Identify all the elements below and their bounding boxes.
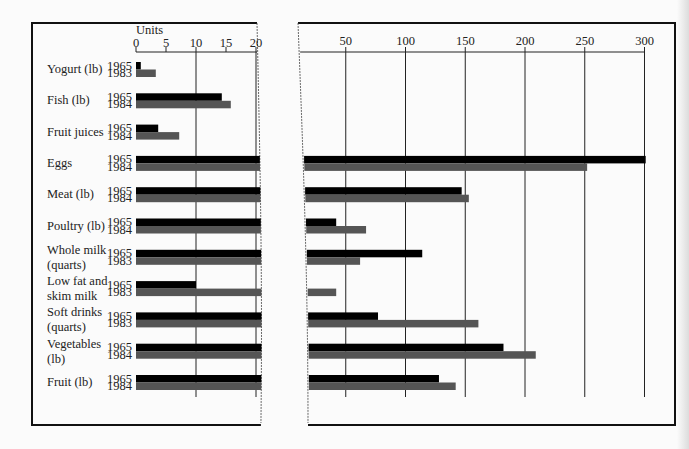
bar-1983-right-part bbox=[307, 257, 360, 265]
x-axis-label: Units bbox=[136, 23, 163, 37]
bar-1983 bbox=[136, 70, 156, 78]
year-label: 1984 bbox=[107, 160, 133, 174]
bars bbox=[136, 62, 646, 390]
left-tick-label: 0 bbox=[133, 36, 139, 50]
year-label: 1984 bbox=[107, 379, 133, 393]
category-label: (lb) bbox=[47, 352, 65, 366]
bar-1965-right-part bbox=[309, 344, 504, 352]
year-label: 1984 bbox=[107, 191, 133, 205]
bar-1984-left-part bbox=[136, 163, 260, 171]
bar-1984-left-part bbox=[136, 351, 261, 359]
bar-1983-right-part bbox=[308, 289, 337, 297]
category-label: (quarts) bbox=[47, 258, 86, 272]
year-label: 1983 bbox=[107, 66, 132, 80]
page-edge-shadow bbox=[677, 0, 689, 449]
year-label: 1984 bbox=[107, 223, 133, 237]
left-tick-label: 5 bbox=[163, 36, 169, 50]
bar-1965-right-part bbox=[309, 375, 439, 383]
category-label: (quarts) bbox=[47, 320, 86, 334]
category-label: skim milk bbox=[47, 289, 98, 303]
category-label: Meat (lb) bbox=[47, 187, 94, 201]
year-label: 1984 bbox=[107, 348, 133, 362]
right-panel-frame bbox=[298, 23, 675, 425]
right-tick-label: 200 bbox=[516, 34, 535, 48]
bar-1984-right-part bbox=[304, 163, 587, 171]
right-tick-label: 250 bbox=[575, 34, 594, 48]
consumption-bar-chart: Units 0510152050100150200250300 19651983… bbox=[0, 0, 689, 449]
bar-1983-left-part bbox=[136, 257, 261, 265]
bar-1965-left-part bbox=[136, 187, 260, 195]
bar-1984 bbox=[136, 101, 231, 109]
bar-1983-right-part bbox=[308, 320, 478, 328]
bar-1965-left-part bbox=[136, 156, 260, 164]
bar-1965-left-part bbox=[136, 344, 261, 352]
category-label: Fish (lb) bbox=[47, 93, 90, 107]
bar-1984-right-part bbox=[309, 351, 536, 359]
bar-1965-left-part bbox=[136, 250, 261, 257]
right-tick-label: 150 bbox=[456, 34, 475, 48]
year-label: 1983 bbox=[107, 254, 132, 268]
bar-1965 bbox=[136, 62, 141, 70]
bar-1965-right-part bbox=[307, 250, 422, 257]
bar-1965-left-part bbox=[136, 219, 261, 227]
bar-1965-right-part bbox=[308, 312, 378, 320]
left-tick-label: 20 bbox=[250, 36, 263, 50]
bar-1965 bbox=[136, 93, 222, 101]
category-label: Eggs bbox=[47, 156, 72, 170]
right-tick-label: 300 bbox=[635, 34, 654, 48]
category-label: Soft drinks bbox=[47, 305, 102, 319]
bar-1984-right-part bbox=[305, 195, 469, 203]
left-tick-label: 15 bbox=[220, 36, 233, 50]
bar-1965-left-part bbox=[136, 375, 261, 383]
bar-1984-left-part bbox=[136, 383, 261, 391]
category-label: Fruit (lb) bbox=[47, 375, 92, 389]
bar-1965-right-part bbox=[304, 156, 646, 164]
year-label: 1984 bbox=[107, 129, 133, 143]
category-label: Poultry (lb) bbox=[47, 219, 105, 233]
year-label: 1983 bbox=[107, 316, 132, 330]
year-label: 1984 bbox=[107, 97, 133, 111]
bar-1984-right-part bbox=[306, 226, 366, 234]
year-label: 1983 bbox=[107, 285, 132, 299]
category-label: Fruit juices bbox=[47, 125, 104, 139]
right-tick-label: 100 bbox=[396, 34, 415, 48]
bar-1984-right-part bbox=[309, 383, 456, 391]
category-label: Yogurt (lb) bbox=[47, 62, 102, 76]
bar-1965 bbox=[136, 125, 158, 133]
bar-1984-left-part bbox=[136, 195, 260, 203]
bar-1983-left-part bbox=[136, 289, 261, 297]
bar-1965-right-part bbox=[305, 187, 462, 195]
bar-1984 bbox=[136, 132, 179, 140]
category-label: Low fat and bbox=[47, 274, 108, 288]
right-tick-label: 50 bbox=[340, 34, 353, 48]
bar-1965-right-part bbox=[306, 219, 336, 227]
bar-1965-left-part bbox=[136, 312, 261, 320]
category-label: Vegetables bbox=[47, 337, 101, 351]
bar-1983-left-part bbox=[136, 320, 261, 328]
axes: Units 0510152050100150200250300 bbox=[133, 23, 654, 52]
category-labels: 19651983Yogurt (lb)19651984Fish (lb)1965… bbox=[47, 59, 133, 394]
left-tick-label: 10 bbox=[190, 36, 203, 50]
bar-1965 bbox=[136, 281, 196, 289]
bar-1984-left-part bbox=[136, 226, 261, 234]
category-label: Whole milk bbox=[47, 243, 107, 257]
